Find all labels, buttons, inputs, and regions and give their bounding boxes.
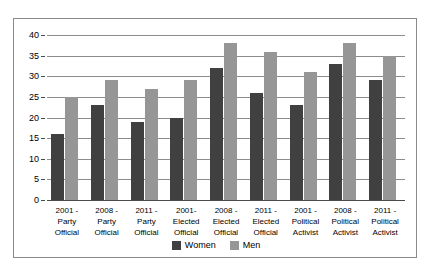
- x-axis-tick-label-line: 2008 -: [325, 205, 365, 216]
- y-axis-tick-label: 10: [29, 154, 39, 163]
- x-axis-tick-label-line: 2001 -: [47, 205, 87, 216]
- x-axis-tick-label-line: 2008 -: [87, 205, 127, 216]
- y-axis-tick-mark: [41, 56, 45, 57]
- x-axis-tick-label-line: Official: [246, 227, 286, 238]
- y-axis-tick-label: 5: [34, 175, 39, 184]
- x-axis-tick-label-line: Activist: [325, 227, 365, 238]
- bar-men: [304, 72, 317, 200]
- x-axis-tick-label-line: Party: [87, 216, 127, 227]
- y-axis-tick-mark: [41, 76, 45, 77]
- x-axis-tick-label-line: Party: [127, 216, 167, 227]
- bar-group: [286, 35, 326, 200]
- bar-women: [250, 93, 263, 200]
- y-axis-tick-label: 35: [29, 51, 39, 60]
- bar-men: [224, 43, 237, 200]
- bar-men: [145, 89, 158, 200]
- bar-men: [105, 80, 118, 200]
- x-axis-tick-label-line: Official: [206, 227, 246, 238]
- bars-layer: [47, 35, 405, 201]
- x-axis-tick-label: 2011 -PartyOfficial: [127, 205, 167, 238]
- x-axis-tick-label: 2001-ElectedOfficial: [166, 205, 206, 238]
- x-axis-tick-label-line: 2001 -: [286, 205, 326, 216]
- bar-men: [65, 97, 78, 200]
- x-axis-tick-label-line: Elected: [206, 216, 246, 227]
- bar-group: [87, 35, 127, 200]
- x-axis-tick-label: 2008 -PoliticalActivist: [325, 205, 365, 238]
- y-axis-tick-label: 0: [34, 196, 39, 205]
- y-axis-tick-label: 25: [29, 92, 39, 101]
- bar-women: [210, 68, 223, 200]
- legend-label: Men: [243, 241, 261, 250]
- x-axis-tick-label-line: Party: [47, 216, 87, 227]
- x-axis-tick-label: 2008 -ElectedOfficial: [206, 205, 246, 238]
- y-axis-tick-mark: [41, 97, 45, 98]
- x-axis-tick-label-line: Official: [87, 227, 127, 238]
- bar-group: [325, 35, 365, 200]
- x-axis-tick-label-line: Political: [286, 216, 326, 227]
- x-axis-tick-label: 2001 -PartyOfficial: [47, 205, 87, 238]
- bar-women: [131, 122, 144, 200]
- bar-women: [290, 105, 303, 200]
- bar-group: [206, 35, 246, 200]
- legend-label: Women: [185, 241, 216, 250]
- bar-chart-figure: 0510152025303540 2001 -PartyOfficial2008…: [13, 18, 417, 258]
- x-axis-tick-label: 2008 -PartyOfficial: [87, 205, 127, 238]
- x-axis-tick-label-line: Political: [325, 216, 365, 227]
- y-axis-tick-mark: [41, 138, 45, 139]
- legend-swatch-icon: [230, 241, 239, 250]
- x-axis-tick-label-line: Activist: [365, 227, 405, 238]
- y-axis-tick-mark: [41, 159, 45, 160]
- bar-women: [51, 134, 64, 200]
- bar-men: [383, 56, 396, 200]
- x-axis-tick-label-line: Elected: [166, 216, 206, 227]
- y-axis-tick-label: 40: [29, 31, 39, 40]
- x-axis-tick-labels: 2001 -PartyOfficial2008 -PartyOfficial20…: [47, 205, 405, 241]
- bar-group: [47, 35, 87, 200]
- y-axis-tick-labels: 0510152025303540: [14, 35, 45, 201]
- x-axis-tick-label-line: Political: [365, 216, 405, 227]
- x-axis-tick-label-line: Official: [166, 227, 206, 238]
- bar-men: [264, 52, 277, 201]
- x-axis-tick-label-line: Activist: [286, 227, 326, 238]
- x-axis-tick-label: 2011 -ElectedOfficial: [246, 205, 286, 238]
- bar-group: [365, 35, 405, 200]
- x-axis-tick-label: 2001 -PoliticalActivist: [286, 205, 326, 238]
- legend-entry-women: Women: [172, 241, 216, 250]
- bar-women: [329, 64, 342, 200]
- bar-women: [369, 80, 382, 200]
- legend-swatch-icon: [172, 241, 181, 250]
- y-axis-tick-mark: [41, 179, 45, 180]
- y-axis-tick-label: 20: [29, 113, 39, 122]
- x-axis-tick-label-line: Official: [127, 227, 167, 238]
- bar-men: [184, 80, 197, 200]
- chart-legend: WomenMen: [14, 241, 418, 250]
- x-axis-tick-label-line: 2011 -: [365, 205, 405, 216]
- x-axis-tick-label-line: Elected: [246, 216, 286, 227]
- y-axis-tick-mark: [41, 35, 45, 36]
- y-axis-tick-mark: [41, 200, 45, 201]
- bar-group: [127, 35, 167, 200]
- plot-area: [47, 35, 405, 201]
- y-axis-tick-label: 30: [29, 72, 39, 81]
- bar-group: [166, 35, 206, 200]
- y-axis-tick-mark: [41, 118, 45, 119]
- x-axis-tick-label-line: 2008 -: [206, 205, 246, 216]
- bar-group: [246, 35, 286, 200]
- bar-men: [343, 43, 356, 200]
- x-axis-tick-label-line: 2011 -: [246, 205, 286, 216]
- bar-women: [91, 105, 104, 200]
- y-axis-tick-label: 15: [29, 134, 39, 143]
- x-axis-tick-label-line: 2011 -: [127, 205, 167, 216]
- x-axis-tick-label: 2011 -PoliticalActivist: [365, 205, 405, 238]
- bar-women: [170, 118, 183, 201]
- x-axis-tick-label-line: Official: [47, 227, 87, 238]
- legend-entry-men: Men: [230, 241, 261, 250]
- x-axis-tick-label-line: 2001-: [166, 205, 206, 216]
